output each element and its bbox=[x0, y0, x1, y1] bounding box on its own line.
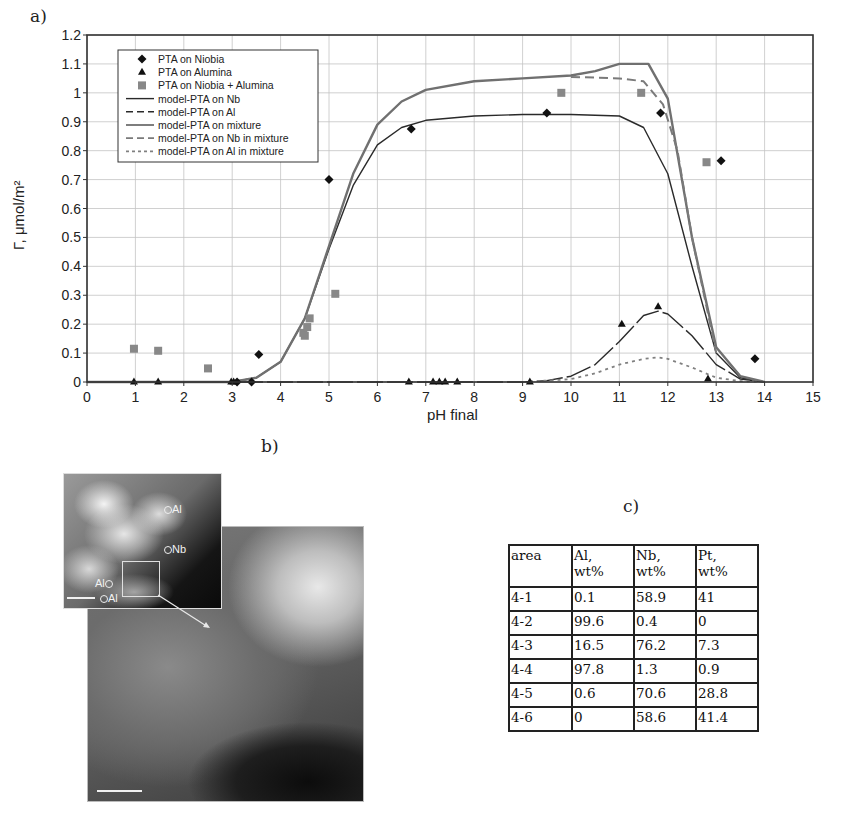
svg-text:13: 13 bbox=[708, 389, 724, 405]
cell: 0.6 bbox=[572, 683, 634, 707]
cell: 0.9 bbox=[696, 659, 758, 683]
scale-bar-main bbox=[97, 790, 142, 792]
panel-label-c: c) bbox=[623, 496, 639, 516]
svg-text:PTA on Alumina: PTA on Alumina bbox=[158, 66, 232, 78]
cell: 0.4 bbox=[634, 611, 696, 635]
svg-text:0.1: 0.1 bbox=[62, 345, 82, 361]
svg-text:5: 5 bbox=[325, 389, 333, 405]
cell: 41.4 bbox=[696, 707, 758, 731]
cell: 4-3 bbox=[509, 635, 572, 659]
y-axis-title: Γ, μmol/m² bbox=[10, 181, 27, 250]
cell: 70.6 bbox=[634, 683, 696, 707]
header-al: Al,wt% bbox=[572, 545, 634, 587]
x-axis-title: pH final bbox=[427, 406, 478, 423]
svg-text:0.4: 0.4 bbox=[62, 258, 82, 274]
svg-text:0.7: 0.7 bbox=[62, 172, 82, 188]
svg-text:1.2: 1.2 bbox=[62, 27, 82, 43]
micro-label-nb: Nb bbox=[164, 543, 186, 555]
cell: 76.2 bbox=[634, 635, 696, 659]
svg-text:1: 1 bbox=[73, 85, 81, 101]
svg-text:8: 8 bbox=[470, 389, 478, 405]
cell: 28.8 bbox=[696, 683, 758, 707]
cell: 0.1 bbox=[572, 587, 634, 611]
svg-text:14: 14 bbox=[757, 389, 773, 405]
header-pt: Pt,wt% bbox=[696, 545, 758, 587]
micro-label-al-3: Al bbox=[100, 592, 118, 604]
cell: 1.3 bbox=[634, 659, 696, 683]
table-header-row: area Al,wt% Nb,wt% Pt,wt% bbox=[509, 545, 758, 587]
svg-text:model-PTA on Nb in mixture: model-PTA on Nb in mixture bbox=[158, 132, 289, 144]
svg-text:model-PTA on Al: model-PTA on Al bbox=[158, 106, 235, 118]
svg-text:0.3: 0.3 bbox=[62, 287, 82, 303]
svg-text:6: 6 bbox=[374, 389, 382, 405]
scale-bar-inset bbox=[67, 597, 95, 599]
cell: 0 bbox=[696, 611, 758, 635]
header-area: area bbox=[509, 545, 572, 587]
svg-text:15: 15 bbox=[805, 389, 821, 405]
cell: 4-2 bbox=[509, 611, 572, 635]
svg-text:9: 9 bbox=[519, 389, 527, 405]
svg-text:0.8: 0.8 bbox=[62, 143, 82, 159]
cell: 99.6 bbox=[572, 611, 634, 635]
svg-text:2: 2 bbox=[180, 389, 188, 405]
chart-legend: PTA on NiobiaPTA on AluminaPTA on Niobia… bbox=[118, 50, 318, 162]
micro-label-al-2: Al bbox=[95, 577, 113, 589]
svg-text:model-PTA on mixture: model-PTA on mixture bbox=[158, 119, 261, 131]
svg-text:0.9: 0.9 bbox=[62, 114, 82, 130]
svg-text:0: 0 bbox=[83, 389, 91, 405]
svg-text:PTA on Niobia: PTA on Niobia bbox=[158, 53, 225, 65]
cell: 0 bbox=[572, 707, 634, 731]
cell: 16.5 bbox=[572, 635, 634, 659]
header-nb: Nb,wt% bbox=[634, 545, 696, 587]
svg-text:0.5: 0.5 bbox=[62, 229, 82, 245]
svg-text:0.2: 0.2 bbox=[62, 316, 82, 332]
cell: 41 bbox=[696, 587, 758, 611]
cell: 97.8 bbox=[572, 659, 634, 683]
svg-text:model-PTA on Al in mixture: model-PTA on Al in mixture bbox=[158, 145, 284, 157]
cell: 4-1 bbox=[509, 587, 572, 611]
composition-table: area Al,wt% Nb,wt% Pt,wt% 4-10.158.941 4… bbox=[508, 544, 759, 732]
svg-text:0: 0 bbox=[73, 374, 81, 390]
svg-text:1: 1 bbox=[132, 389, 140, 405]
cell: 4-5 bbox=[509, 683, 572, 707]
svg-text:3: 3 bbox=[228, 389, 236, 405]
micro-label-al-1: Al bbox=[164, 503, 182, 515]
cell: 58.9 bbox=[634, 587, 696, 611]
table-row: 4-316.576.27.3 bbox=[509, 635, 758, 659]
svg-text:7: 7 bbox=[422, 389, 430, 405]
table-row: 4-10.158.941 bbox=[509, 587, 758, 611]
svg-text:11: 11 bbox=[612, 389, 627, 405]
svg-text:PTA on Niobia + Alumina: PTA on Niobia + Alumina bbox=[158, 79, 274, 91]
svg-text:10: 10 bbox=[563, 389, 579, 405]
adsorption-chart: 012345678910111213141500.10.20.30.40.50.… bbox=[0, 0, 853, 440]
table-row: 4-6058.641.4 bbox=[509, 707, 758, 731]
svg-text:0.6: 0.6 bbox=[62, 201, 82, 217]
cell: 4-6 bbox=[509, 707, 572, 731]
svg-text:model-PTA on Nb: model-PTA on Nb bbox=[158, 93, 240, 105]
table-row: 4-497.81.30.9 bbox=[509, 659, 758, 683]
table-row: 4-50.670.628.8 bbox=[509, 683, 758, 707]
region-of-interest-box bbox=[122, 561, 160, 597]
table-row: 4-299.60.40 bbox=[509, 611, 758, 635]
svg-text:4: 4 bbox=[277, 389, 285, 405]
cell: 4-4 bbox=[509, 659, 572, 683]
cell: 58.6 bbox=[634, 707, 696, 731]
svg-text:12: 12 bbox=[660, 389, 676, 405]
svg-text:1.1: 1.1 bbox=[62, 56, 82, 72]
cell: 7.3 bbox=[696, 635, 758, 659]
